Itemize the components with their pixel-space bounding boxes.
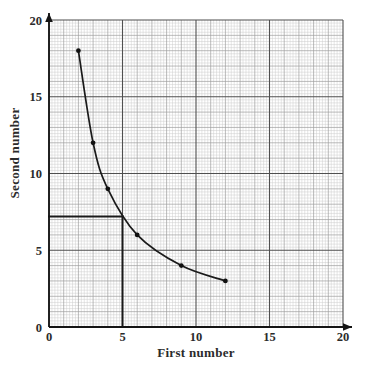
x-axis-title: First number xyxy=(157,345,235,360)
chart-page: 05101520 05101520 First number Second nu… xyxy=(0,0,365,368)
x-tick-label-5: 5 xyxy=(119,330,125,344)
y-tick-label-15: 15 xyxy=(30,90,43,104)
y-axis-title: Second number xyxy=(7,108,22,199)
y-tick-label-10: 10 xyxy=(30,167,43,181)
data-point-marker xyxy=(135,233,140,238)
x-tick-label-10: 10 xyxy=(190,330,203,344)
x-tick-label-15: 15 xyxy=(263,330,276,344)
x-tick-label-0: 0 xyxy=(46,330,52,344)
data-point-marker xyxy=(179,263,184,268)
data-point-marker xyxy=(91,140,96,145)
y-tick-label-5: 5 xyxy=(36,244,42,258)
x-tick-label-20: 20 xyxy=(337,330,350,344)
y-tick-label-20: 20 xyxy=(30,14,43,28)
chart-canvas: 05101520 05101520 First number Second nu… xyxy=(0,0,365,368)
data-point-marker xyxy=(76,48,81,53)
data-point-marker xyxy=(105,186,110,191)
y-tick-label-0: 0 xyxy=(36,321,42,335)
data-point-marker xyxy=(223,279,228,284)
